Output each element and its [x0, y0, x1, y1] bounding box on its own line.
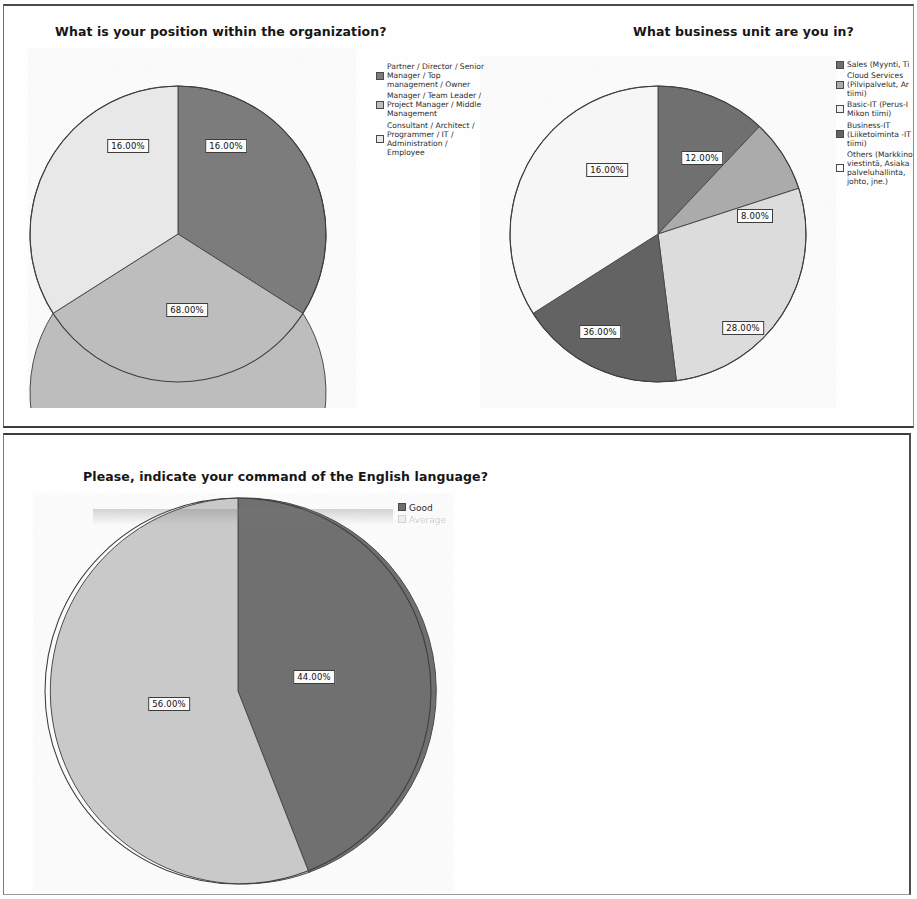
- legend-item-label: Others (Markkino viestintä, Asiaka palve…: [847, 150, 913, 186]
- chart-3-slice-label-1: 44.00%: [293, 670, 335, 684]
- legend-swatch-icon: [836, 81, 844, 89]
- chart-2-slice-label-5: 16.00%: [586, 163, 628, 177]
- chart-2-pie: 12.00% 8.00% 28.00% 36.00% 16.00%: [478, 48, 838, 408]
- chart-position-within-organization: What is your position within the organiz…: [0, 0, 460, 428]
- legend-swatch-icon: [376, 135, 384, 143]
- legend-item[interactable]: Basic-IT (Perus-I Mikon tiimi): [836, 100, 917, 118]
- legend-item-label: Basic-IT (Perus-I Mikon tiimi): [847, 100, 908, 118]
- chart-1-slice-label-1: 16.00%: [205, 139, 247, 153]
- legend-swatch-icon: [376, 72, 384, 80]
- chart-2-slice-label-1: 12.00%: [681, 151, 723, 165]
- chart-2-slice-label-3: 28.00%: [722, 321, 764, 335]
- legend-swatch-icon: [836, 61, 844, 69]
- chart-3-title: Please, indicate your command of the Eng…: [83, 469, 488, 484]
- legend-item-label: Business-IT (Liiketoiminta -IT tiimi): [847, 121, 911, 148]
- chart-2-title: What business unit are you in?: [633, 24, 854, 39]
- chart-1-slice-label-3: 16.00%: [107, 139, 149, 153]
- chart-english-language: Please, indicate your command of the Eng…: [0, 433, 917, 895]
- chart-3-legend: Good Average: [398, 503, 518, 537]
- chart-2-slice-label-4: 36.00%: [579, 325, 621, 339]
- legend-swatch-icon: [398, 515, 406, 523]
- legend-item[interactable]: Business-IT (Liiketoiminta -IT tiimi): [836, 121, 917, 148]
- legend-swatch-icon: [836, 130, 844, 138]
- legend-item[interactable]: Average: [398, 515, 518, 526]
- chart-1-slice-label-2: 68.00%: [166, 303, 208, 317]
- legend-item[interactable]: Sales (Myynti, Ti: [836, 60, 917, 69]
- chart-business-unit: What business unit are you in?: [458, 0, 917, 428]
- chart-1-pie: 16.00% 68.00% 16.00%: [28, 48, 358, 408]
- chart-3-pie: 44.00% 56.00%: [33, 493, 453, 893]
- legend-item[interactable]: Others (Markkino viestintä, Asiaka palve…: [836, 150, 917, 186]
- legend-item[interactable]: Cloud Services (Pilvipalvelut, Ar tiimi): [836, 71, 917, 98]
- legend-item[interactable]: Good: [398, 503, 518, 514]
- chart-3-slice-label-2: 56.00%: [148, 697, 190, 711]
- legend-item-label: Average: [409, 515, 446, 526]
- chart-1-title: What is your position within the organiz…: [55, 24, 387, 39]
- chart-2-legend: Sales (Myynti, Ti Cloud Services (Pilvip…: [836, 60, 917, 190]
- legend-item-label: Cloud Services (Pilvipalvelut, Ar tiimi): [847, 71, 909, 98]
- chart-2-slice-label-2: 8.00%: [737, 209, 773, 223]
- legend-swatch-icon: [376, 101, 384, 109]
- legend-item-label: Sales (Myynti, Ti: [847, 60, 909, 69]
- legend-item-label: Good: [409, 503, 433, 514]
- legend-swatch-icon: [836, 164, 844, 172]
- legend-swatch-icon: [836, 105, 844, 113]
- legend-swatch-icon: [398, 503, 406, 511]
